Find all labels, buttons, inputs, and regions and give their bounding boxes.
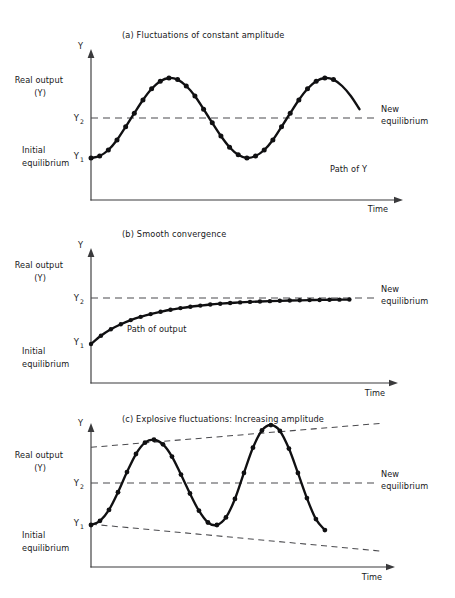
figure-economic-adjustment-paths: (a) Fluctuations of constant amplitude Y… <box>0 0 455 598</box>
panel-b-y-axis-arrow <box>88 248 95 257</box>
panel-b-new-equilibrium-label-line2: equilibrium <box>381 296 428 306</box>
data-point <box>314 79 319 84</box>
panel-c-y-axis-arrow <box>88 423 95 432</box>
data-point <box>123 124 128 129</box>
panel-c-tick-y1: Y 1 <box>73 518 84 530</box>
data-point <box>238 300 242 304</box>
panel-b-tick-y2: Y 2 <box>73 293 84 305</box>
panel-a-side-label-y: (Y) <box>34 88 46 98</box>
data-point <box>260 428 265 433</box>
data-point <box>279 124 284 129</box>
chart-panel-a: (a) Fluctuations of constant amplitude Y… <box>0 0 455 215</box>
data-point <box>307 298 311 302</box>
panel-b-tick-y1: Y 1 <box>73 337 84 349</box>
data-point <box>107 507 112 512</box>
data-point <box>89 156 94 161</box>
data-point <box>270 138 275 143</box>
data-point <box>218 302 222 306</box>
panel-a-y-axis-arrow <box>88 49 95 58</box>
panel-c-side-label-y: (Y) <box>34 463 46 473</box>
data-point <box>317 298 321 302</box>
data-point <box>305 496 310 501</box>
data-point <box>148 312 152 316</box>
panel-b-series-label: Path of output <box>127 324 187 334</box>
data-point <box>244 156 249 161</box>
panel-a-side-label-initial: Initial <box>22 145 45 155</box>
data-point <box>258 299 262 303</box>
data-point <box>97 154 102 159</box>
data-point <box>314 517 319 522</box>
data-point <box>89 523 94 528</box>
data-point <box>331 77 336 82</box>
data-point <box>305 86 310 91</box>
data-point <box>166 76 171 81</box>
data-point <box>236 152 241 157</box>
data-point <box>262 148 267 153</box>
data-point <box>218 134 223 139</box>
panel-b-tick-y2-label: Y <box>73 293 80 303</box>
panel-a-x-axis-label: Time <box>367 204 388 214</box>
panel-c-side-label-initial: Initial <box>22 530 45 540</box>
panel-c-side-label-real-output: Real output <box>15 450 64 460</box>
panel-c-curve-group <box>89 423 328 533</box>
data-point <box>287 446 292 451</box>
data-point <box>188 305 192 309</box>
panel-a-tick-y1: Y 1 <box>73 151 84 163</box>
data-point <box>251 445 256 450</box>
data-point <box>116 490 121 495</box>
data-point <box>206 520 211 525</box>
panel-a-x-axis-arrow <box>394 197 403 204</box>
data-point <box>170 454 175 459</box>
panel-b-side-label-initial: Initial <box>22 346 45 356</box>
chart-panel-b: (b) Smooth convergence Y Time Y 2 Y 1 Re… <box>0 215 455 400</box>
data-point <box>242 471 247 476</box>
data-point <box>132 111 137 116</box>
data-point <box>184 84 189 89</box>
data-point <box>106 148 111 153</box>
data-point <box>278 429 283 434</box>
data-point <box>347 297 351 301</box>
data-point <box>269 423 274 428</box>
data-point <box>119 322 123 326</box>
panel-c-tick-y2-label: Y <box>73 478 80 488</box>
data-point <box>188 491 193 496</box>
panel-c-lower-envelope <box>91 524 381 551</box>
panel-c-curve <box>91 425 325 530</box>
data-point <box>129 318 133 322</box>
panel-a-new-equilibrium-label-line2: equilibrium <box>381 116 428 126</box>
panel-c-new-equilibrium-label-line2: equilibrium <box>381 481 428 491</box>
data-point <box>288 298 292 302</box>
data-point <box>268 299 272 303</box>
data-point <box>227 145 232 150</box>
panel-b-tick-y2-subscript: 2 <box>80 298 84 305</box>
panel-b-title: (b) Smooth convergence <box>122 229 226 239</box>
panel-a-tick-y2-label: Y <box>73 113 80 123</box>
data-point <box>140 98 145 103</box>
panel-c-tick-y2: Y 2 <box>73 478 84 490</box>
data-point <box>168 308 172 312</box>
data-point <box>161 442 166 447</box>
data-point <box>248 300 252 304</box>
data-point <box>98 518 103 523</box>
data-point <box>175 77 180 82</box>
data-point <box>192 94 197 99</box>
panel-b-tick-y1-subscript: 1 <box>80 342 84 349</box>
data-point <box>296 471 301 476</box>
data-point <box>152 437 157 442</box>
data-point <box>210 120 215 125</box>
panel-c-upper-envelope <box>91 423 381 447</box>
data-point <box>253 154 258 159</box>
data-point <box>149 86 154 91</box>
panel-c-y-axis-label: Y <box>77 418 84 428</box>
panel-c-title: (c) Explosive fluctuations: Increasing a… <box>122 414 324 424</box>
panel-b-new-equilibrium-label-line1: New <box>381 284 399 294</box>
panel-b-side-label-y: (Y) <box>34 273 46 283</box>
data-point <box>215 523 220 528</box>
panel-b-side-label-real-output: Real output <box>15 260 64 270</box>
data-point <box>201 107 206 112</box>
data-point <box>99 334 103 338</box>
data-point <box>288 111 293 116</box>
data-point <box>323 528 328 533</box>
data-point <box>278 299 282 303</box>
panel-a-axes <box>88 49 403 203</box>
